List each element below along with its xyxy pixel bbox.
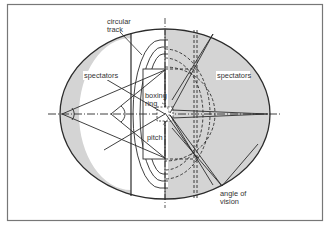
- label-pitch: pitch: [147, 133, 163, 142]
- stadium-diagram: circular track spectators spectators box…: [0, 0, 329, 226]
- label-boxing-ring-2: ring: [145, 99, 157, 108]
- label-spectators-right: spectators: [217, 71, 251, 80]
- label-angle-of-vision-2: vision: [220, 197, 239, 206]
- label-circular-track-2: track: [107, 25, 123, 34]
- label-spectators-left: spectators: [84, 71, 118, 80]
